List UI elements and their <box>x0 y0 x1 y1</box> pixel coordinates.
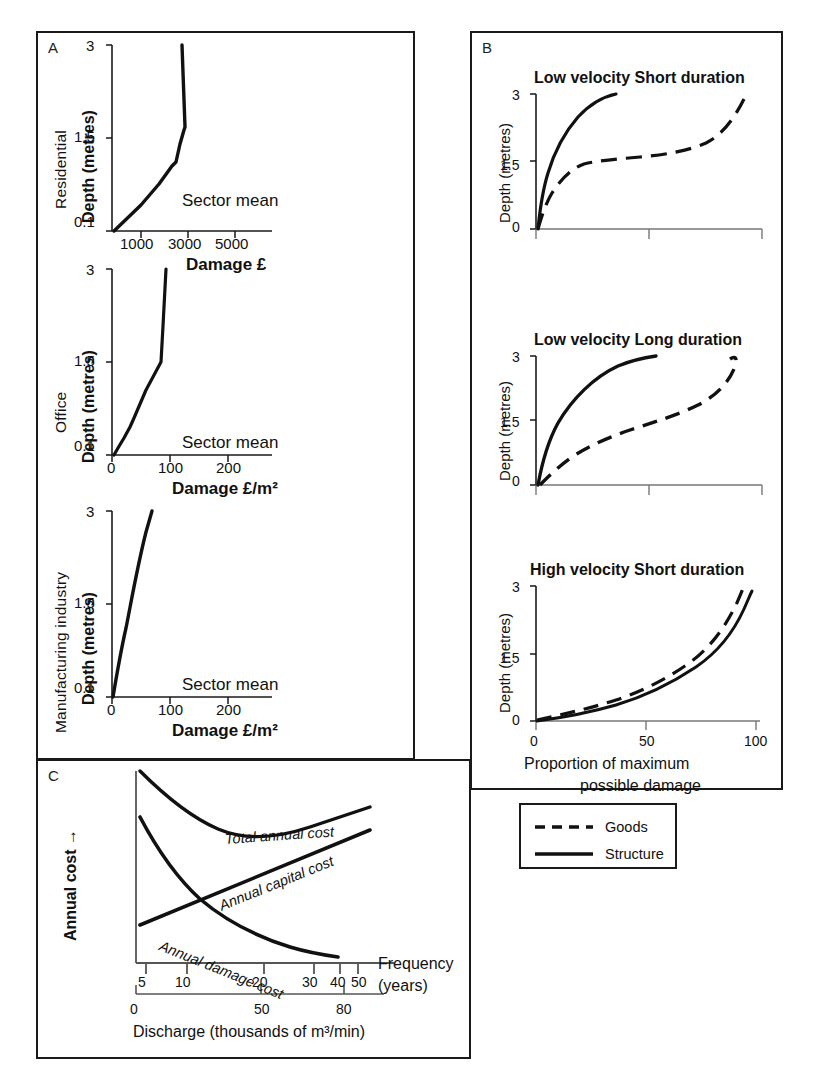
b2-ytick-1.5: 1.5 <box>500 414 519 430</box>
a2-x-axis-label: Damage £/m² <box>172 479 278 499</box>
b3-x-axis-label-line1: Proportion of maximum <box>524 755 689 773</box>
b2-ytick-3: 3 <box>512 349 520 365</box>
sector-label-residential: Residential <box>52 130 70 209</box>
b1-ytick-0: 0 <box>512 219 520 235</box>
a1-ytick-0.1: 0.1 <box>74 213 95 230</box>
b2-y-ticks <box>530 356 536 485</box>
a2-y-ticks <box>106 269 112 455</box>
b3-ytick-0: 0 <box>512 712 520 728</box>
b1-plot-area <box>530 91 774 241</box>
a1-y-ticks <box>106 45 112 231</box>
panel-c: C Annual cost → Total annual cos <box>36 759 471 1059</box>
b1-ytick-3: 3 <box>512 87 520 103</box>
b3-ytick-3: 3 <box>512 579 520 595</box>
b2-x-ticks <box>536 485 762 495</box>
b1-title: Low velocity Short duration <box>534 69 745 87</box>
a2-xtick-100: 100 <box>158 459 183 476</box>
c-frequency-axis-label-line2: (years) <box>378 977 428 995</box>
solid-line-icon <box>533 847 595 861</box>
panel-b-letter: B <box>482 39 493 56</box>
c-discharge-tick-80: 80 <box>336 1001 352 1017</box>
a1-plot-area <box>104 42 294 242</box>
b1-goods-curve <box>538 99 744 229</box>
b3-title: High velocity Short duration <box>530 561 744 579</box>
c-freq-tick-30: 30 <box>302 974 318 990</box>
a1-ytick-1.5: 1.5 <box>74 128 95 145</box>
c-y-axis-label: Annual cost → <box>62 829 80 941</box>
a1-ytick-3: 3 <box>86 37 94 54</box>
b2-title: Low velocity Long duration <box>534 331 742 349</box>
a2-ytick-3: 3 <box>86 261 94 278</box>
b3-y-ticks <box>530 586 536 721</box>
a3-xtick-0: 0 <box>107 701 115 718</box>
a2-xtick-0: 0 <box>107 459 115 476</box>
a3-sector-mean-curve <box>113 511 152 697</box>
b2-y-axis-label: Depth (metres) <box>496 381 513 481</box>
b1-y-ticks <box>530 94 536 229</box>
a1-sector-mean-annotation: Sector mean <box>182 191 278 211</box>
a3-ytick-3: 3 <box>86 503 94 520</box>
c-frequency-ticks <box>146 963 358 974</box>
a2-sector-mean-curve <box>114 269 166 455</box>
a2-sector-mean-annotation: Sector mean <box>182 433 278 453</box>
sector-label-manufacturing: Manufacturing industry <box>52 572 70 733</box>
a2-ytick-0.1: 0.1 <box>74 437 95 454</box>
b3-plot-area <box>530 583 774 733</box>
panel-a-letter: A <box>48 39 59 56</box>
c-freq-tick-50: 50 <box>351 974 367 990</box>
a1-xtick-3000: 3000 <box>168 235 201 252</box>
a3-sector-mean-annotation: Sector mean <box>182 675 278 695</box>
b2-structure-curve <box>538 356 656 485</box>
b1-ytick-1.5: 1.5 <box>500 157 519 173</box>
b3-xtick-0: 0 <box>530 733 538 749</box>
c-total-annual-cost-curve <box>140 771 370 836</box>
legend-item-goods: Goods <box>533 818 648 836</box>
a3-y-ticks <box>106 511 112 697</box>
a3-xtick-200: 200 <box>216 701 241 718</box>
b3-xtick-100: 100 <box>744 733 767 749</box>
legend: Goods Structure <box>519 803 677 869</box>
panel-b: B Low velocity Short duration Depth (met… <box>470 31 783 790</box>
a1-xtick-5000: 5000 <box>215 235 248 252</box>
legend-item-structure: Structure <box>533 845 664 863</box>
legend-label-goods: Goods <box>605 819 648 835</box>
panel-a: A Residential Depth (metres) 3 1.5 0.1 1… <box>36 31 415 760</box>
c-freq-tick-10: 10 <box>175 974 191 990</box>
a3-ytick-0.1: 0.1 <box>74 679 95 696</box>
dashed-line-icon <box>533 820 595 834</box>
b2-plot-area <box>530 353 774 498</box>
c-frequency-axis-label-line1: Frequency <box>378 955 454 973</box>
panel-c-letter: C <box>48 767 59 784</box>
a2-xtick-200: 200 <box>216 459 241 476</box>
sector-label-office: Office <box>52 392 70 433</box>
legend-label-structure: Structure <box>605 846 664 862</box>
figure-root: A Residential Depth (metres) 3 1.5 0.1 1… <box>0 0 815 1080</box>
b3-ytick-1.5: 1.5 <box>500 650 519 666</box>
b3-xtick-50: 50 <box>639 733 655 749</box>
b3-x-axis-label-line2: possible damage <box>580 777 701 795</box>
c-freq-tick-5: 5 <box>138 974 146 990</box>
c-discharge-tick-50: 50 <box>254 1001 270 1017</box>
b2-ytick-0: 0 <box>512 473 520 489</box>
a3-ytick-1.5: 1.5 <box>74 594 95 611</box>
a2-ytick-1.5: 1.5 <box>74 352 95 369</box>
b2-goods-curve <box>540 357 736 485</box>
a3-x-axis-label: Damage £/m² <box>172 721 278 741</box>
c-discharge-tick-0: 0 <box>130 1001 138 1017</box>
c-freq-tick-40: 40 <box>330 974 346 990</box>
b1-x-ticks <box>536 229 762 239</box>
b3-structure-curve <box>537 591 752 721</box>
a3-xtick-100: 100 <box>158 701 183 718</box>
b3-x-ticks <box>536 721 756 730</box>
a1-xtick-1000: 1000 <box>120 235 153 252</box>
a1-sector-mean-curve <box>114 45 185 231</box>
c-discharge-axis-label: Discharge (thousands of m³/min) <box>133 1023 365 1041</box>
c-freq-tick-20: 20 <box>252 974 268 990</box>
